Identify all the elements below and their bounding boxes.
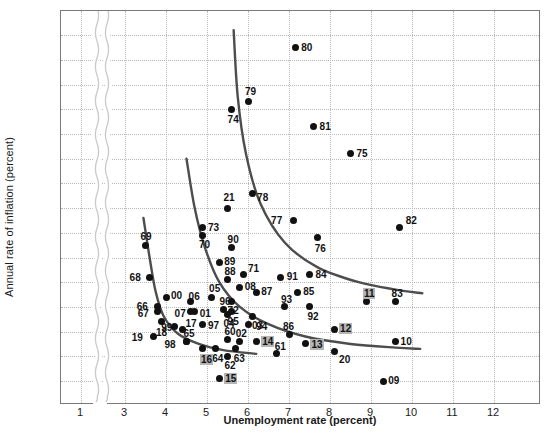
data-point-label-78: 78	[257, 192, 268, 203]
data-point-label-15: 15	[224, 373, 237, 384]
data-point-00[interactable]	[163, 294, 170, 301]
gridline-x-7	[289, 11, 290, 403]
data-point-80[interactable]	[292, 44, 299, 51]
data-point-87[interactable]	[253, 289, 260, 296]
curve-1970s	[187, 159, 421, 349]
data-point-03[interactable]	[245, 321, 252, 328]
x-tick-11: 11	[437, 406, 467, 418]
data-point-label-18: 18	[156, 327, 167, 338]
data-point-97[interactable]	[199, 321, 206, 328]
data-point-83[interactable]	[392, 298, 399, 305]
data-point-label-98: 98	[165, 339, 176, 350]
data-point-11[interactable]	[363, 298, 370, 305]
gridline-x-11	[453, 11, 454, 403]
gridline-x-8	[330, 11, 331, 403]
data-point-74[interactable]	[228, 106, 235, 113]
gridline-x-1	[81, 11, 82, 403]
data-point-label-03: 03	[252, 320, 263, 331]
data-point-05[interactable]	[208, 294, 215, 301]
data-point-04[interactable]	[224, 311, 231, 318]
data-point-75[interactable]	[347, 150, 354, 157]
gridline-y-14	[61, 35, 539, 36]
data-point-21[interactable]	[224, 205, 231, 212]
curve-1980s	[234, 30, 423, 293]
axis-break-bottom-gap	[60, 396, 130, 410]
data-point-label-14: 14	[261, 336, 274, 347]
data-point-89[interactable]	[216, 259, 223, 266]
plot-area: 8079748175782177827370907669898871918468…	[60, 10, 540, 404]
data-point-64[interactable]	[212, 345, 219, 352]
x-tick-7: 7	[273, 406, 303, 418]
gridline-y-9	[61, 159, 539, 160]
data-point-13[interactable]	[302, 340, 309, 347]
data-point-label-02: 02	[236, 328, 247, 339]
data-point-label-00: 00	[171, 290, 182, 301]
x-tick-8: 8	[314, 406, 344, 418]
data-point-20[interactable]	[331, 348, 338, 355]
data-point-79[interactable]	[245, 98, 252, 105]
data-point-14[interactable]	[253, 338, 260, 345]
data-point-label-85: 85	[303, 286, 314, 297]
data-point-label-17: 17	[185, 318, 196, 329]
data-point-85[interactable]	[294, 289, 301, 296]
data-point-label-71: 71	[248, 263, 259, 274]
data-point-label-76: 76	[315, 243, 326, 254]
data-point-98[interactable]	[183, 338, 190, 345]
data-point-78[interactable]	[249, 190, 256, 197]
data-point-01[interactable]	[191, 308, 198, 315]
gridline-y-12	[61, 85, 539, 86]
x-tick-6: 6	[232, 406, 262, 418]
gridline-x-5	[207, 11, 208, 403]
data-point-09[interactable]	[380, 378, 387, 385]
data-point-70[interactable]	[199, 232, 206, 239]
data-point-84[interactable]	[306, 271, 313, 278]
data-point-10[interactable]	[392, 338, 399, 345]
data-point-label-74: 74	[228, 114, 239, 125]
data-point-label-07: 07	[175, 308, 186, 319]
data-point-15[interactable]	[216, 375, 223, 382]
data-point-label-84: 84	[316, 269, 327, 280]
data-point-91[interactable]	[277, 274, 284, 281]
data-point-label-77: 77	[271, 215, 282, 226]
gridline-y-0	[61, 381, 539, 382]
gridline-x-9	[371, 11, 372, 403]
data-point-08[interactable]	[236, 284, 243, 291]
gridline-y-13	[61, 60, 539, 61]
data-point-68[interactable]	[146, 274, 153, 281]
data-point-62[interactable]	[224, 353, 231, 360]
x-tick-4: 4	[150, 406, 180, 418]
data-point-92[interactable]	[306, 303, 313, 310]
data-point-63[interactable]	[232, 345, 239, 352]
data-point-label-12: 12	[339, 323, 352, 334]
data-point-12[interactable]	[331, 326, 338, 333]
x-tick-5: 5	[191, 406, 221, 418]
data-point-71[interactable]	[240, 271, 247, 278]
data-point-67[interactable]	[154, 308, 161, 315]
gridline-y-6	[61, 233, 539, 234]
data-point-label-70: 70	[199, 239, 210, 250]
data-point-label-05: 05	[209, 283, 220, 294]
data-point-label-81: 81	[320, 121, 331, 132]
data-point-69[interactable]	[142, 242, 149, 249]
data-point-label-68: 68	[130, 272, 141, 283]
data-point-81[interactable]	[310, 123, 317, 130]
gridline-y-3	[61, 307, 539, 308]
data-point-label-06: 06	[189, 291, 200, 302]
axis-break-gap	[93, 396, 107, 404]
x-tick-10: 10	[396, 406, 426, 418]
data-point-label-80: 80	[301, 42, 312, 53]
gridline-y-7	[61, 208, 539, 209]
data-point-76[interactable]	[314, 234, 321, 241]
gridline-y-5	[61, 258, 539, 259]
data-point-label-69: 69	[141, 231, 152, 242]
y-axis-title: Annual rate of inflation (percent)	[0, 0, 18, 434]
gridline-y-8	[61, 183, 539, 184]
data-point-16[interactable]	[199, 345, 206, 352]
data-point-label-75: 75	[357, 148, 368, 159]
data-point-label-62: 62	[225, 360, 236, 371]
data-point-82[interactable]	[396, 224, 403, 231]
data-point-77[interactable]	[290, 217, 297, 224]
data-point-90[interactable]	[228, 244, 235, 251]
data-point-label-83: 83	[392, 288, 403, 299]
data-point-73[interactable]	[199, 224, 206, 231]
